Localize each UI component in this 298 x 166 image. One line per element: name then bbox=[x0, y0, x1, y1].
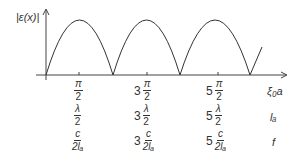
tick-label-5pi-half: 5π2 bbox=[206, 79, 223, 102]
tick-label-3pi-half: 3π2 bbox=[134, 79, 151, 102]
freq-label-3: 3c2lₐ bbox=[134, 129, 154, 152]
length-axis-label: lₐ bbox=[270, 112, 276, 123]
curve bbox=[46, 20, 262, 75]
frequency-axis-label: f bbox=[272, 137, 275, 148]
length-label-3: 3λ2 bbox=[134, 104, 150, 127]
freq-label-5: 5c2lₐ bbox=[206, 129, 226, 152]
freq-label-1: c2lₐ bbox=[70, 129, 83, 152]
x-axis-label: ξ₀a bbox=[267, 86, 283, 97]
tick-label-pi-half: π2 bbox=[72, 79, 83, 102]
y-axis-label: |ε(x)| bbox=[16, 12, 39, 23]
length-label-5: 5λ2 bbox=[206, 104, 222, 127]
length-label-1: λ2 bbox=[72, 104, 81, 127]
